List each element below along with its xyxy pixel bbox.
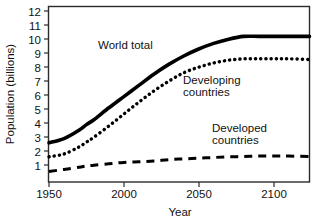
population-projection-chart: 12 11 10 9 8 7 6 5 4 3 2 1 1950 2000 205… — [0, 0, 320, 221]
y-tick-label-8: 8 — [35, 62, 41, 74]
plot-frame — [49, 7, 310, 183]
y-tick-label-1: 1 — [35, 160, 41, 172]
x-tick-label-2100: 2100 — [261, 188, 287, 200]
y-tick-label-9: 9 — [35, 48, 41, 60]
y-tick-label-12: 12 — [28, 6, 41, 18]
x-axis-title: Year — [168, 206, 191, 218]
series-line-world-total — [49, 36, 310, 143]
y-tick-label-6: 6 — [35, 90, 41, 102]
y-tick-label-4: 4 — [35, 118, 42, 130]
annotation-developing-line1: Developing — [183, 74, 241, 86]
x-tick-label-2050: 2050 — [186, 188, 212, 200]
x-tickmarks — [49, 182, 274, 187]
chart-canvas: 12 11 10 9 8 7 6 5 4 3 2 1 1950 2000 205… — [0, 0, 320, 221]
y-tick-label-7: 7 — [35, 76, 41, 88]
y-axis-title: Population (billions) — [4, 44, 16, 145]
x-tick-label-2000: 2000 — [111, 188, 137, 200]
y-tick-label-10: 10 — [28, 34, 41, 46]
y-tick-label-11: 11 — [29, 20, 41, 32]
y-tick-labels: 12 11 10 9 8 7 6 5 4 3 2 1 — [28, 6, 41, 172]
x-tick-label-1950: 1950 — [36, 188, 62, 200]
series-line-developing-countries — [49, 59, 310, 157]
annotation-world-total: World total — [98, 39, 153, 51]
annotation-developing-line2: countries — [183, 86, 230, 98]
annotation-developed-line1: Developed — [212, 122, 267, 134]
annotation-developed-line2: countries — [212, 134, 259, 146]
y-tick-label-5: 5 — [35, 104, 41, 116]
x-tick-labels: 1950 2000 2050 2100 — [36, 188, 287, 200]
series-line-developed-countries — [49, 156, 310, 171]
y-tick-label-2: 2 — [35, 146, 41, 158]
y-tick-label-3: 3 — [35, 132, 41, 144]
